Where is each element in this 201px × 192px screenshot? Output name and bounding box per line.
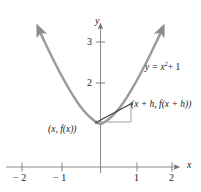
curve-equation-label: y = x2+ 1 — [145, 63, 180, 73]
parabola-left-arrow — [39, 30, 44, 42]
math-figure-secant-line: y x 3 2 − 2 − 1 1 2 y = x2+ 1 (x, f(x)) … — [0, 0, 201, 192]
point-x-fx-label: (x, f(x)) — [48, 125, 76, 135]
point-x-fx-marker — [95, 121, 98, 124]
x-tick-label--2: − 2 — [13, 173, 26, 183]
secant-segment — [96, 104, 132, 123]
y-axis-label: y — [95, 16, 99, 26]
graph-canvas — [0, 0, 201, 192]
x-axis-label: x — [187, 160, 191, 170]
x-tick-label-2: 2 — [169, 173, 174, 183]
point-xh-fxh-label: (x + h, f(x + h)) — [131, 100, 191, 110]
curve-equation-rhs: + 1 — [168, 62, 180, 72]
parabola-right-arrow — [157, 30, 162, 42]
x-axis — [6, 163, 177, 172]
y-axis — [96, 26, 105, 173]
x-tick-label-1: 1 — [134, 173, 139, 183]
y-tick-label-3: 3 — [87, 37, 92, 47]
x-tick-label--1: − 1 — [53, 173, 66, 183]
curve-equation-lhs: y = x — [145, 62, 165, 72]
y-tick-label-2: 2 — [87, 78, 92, 88]
